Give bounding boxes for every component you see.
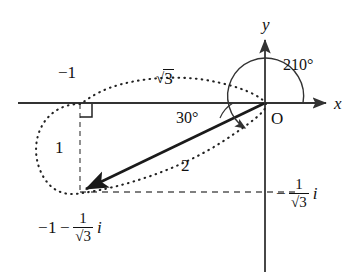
point-imaginary-unit: i [93, 218, 102, 237]
point-fraction: 1 √3 [73, 211, 93, 244]
label-x-axis: x [334, 95, 342, 112]
label-vector-length: 2 [181, 157, 190, 174]
right-angle-marker [80, 104, 92, 117]
sqrt-glyph: √3 [155, 68, 174, 86]
point-operator: − [57, 218, 73, 237]
label-side-one: 1 [55, 139, 64, 156]
label-negative-one: −1 [58, 64, 76, 81]
label-origin: O [271, 110, 283, 127]
point-fraction-denominator: √3 [73, 227, 93, 245]
label-imaginary-value: − 1 √3 i [276, 178, 318, 211]
label-y-axis: y [262, 16, 270, 33]
vector-arrow [86, 104, 264, 190]
label-sqrt-three: √3 [155, 68, 174, 86]
imag-fraction-numerator: 1 [289, 177, 309, 193]
dotted-reference-loop [36, 78, 266, 194]
imag-operator: − [276, 184, 286, 203]
point-fraction-numerator: 1 [73, 211, 93, 227]
label-angle-30: 30° [176, 110, 198, 126]
point-real-part: −1 [38, 218, 57, 237]
imag-imaginary-unit: i [309, 184, 318, 203]
label-angle-210: 210° [283, 57, 313, 73]
radical-argument: 3 [163, 69, 174, 87]
imag-fraction-denominator: √3 [289, 193, 309, 211]
complex-plane-figure: −1 √3 1 2 30° 210° x y O −1− 1 √3 i − 1 … [0, 0, 355, 275]
label-point-value: −1− 1 √3 i [38, 212, 102, 245]
imag-fraction: 1 √3 [289, 177, 309, 210]
